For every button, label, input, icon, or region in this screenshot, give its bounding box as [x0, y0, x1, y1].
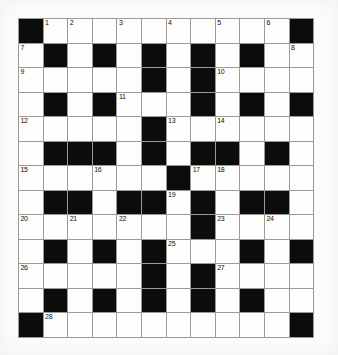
crossword-cell[interactable]	[19, 239, 44, 264]
crossword-cell[interactable]	[19, 141, 44, 166]
crossword-cell[interactable]: 10	[215, 68, 240, 93]
crossword-cell[interactable]	[166, 264, 191, 289]
crossword-cell[interactable]	[43, 68, 68, 93]
crossword-cell[interactable]	[68, 166, 93, 191]
crossword-cell[interactable]	[166, 92, 191, 117]
crossword-cell[interactable]: 4	[166, 19, 191, 44]
crossword-cell[interactable]	[240, 117, 265, 142]
crossword-cell[interactable]: 3	[117, 19, 142, 44]
crossword-cell[interactable]	[215, 43, 240, 68]
crossword-cell[interactable]: 7	[19, 43, 44, 68]
crossword-cell[interactable]	[117, 264, 142, 289]
crossword-cell[interactable]	[166, 215, 191, 240]
crossword-cell[interactable]	[166, 288, 191, 313]
crossword-cell[interactable]	[117, 43, 142, 68]
crossword-cell[interactable]	[264, 92, 289, 117]
crossword-cell[interactable]	[117, 166, 142, 191]
crossword-cell[interactable]	[92, 313, 117, 338]
crossword-cell[interactable]	[191, 239, 216, 264]
crossword-cell[interactable]: 25	[166, 239, 191, 264]
crossword-cell[interactable]: 16	[92, 166, 117, 191]
crossword-cell[interactable]	[289, 68, 314, 93]
crossword-cell[interactable]	[43, 166, 68, 191]
crossword-cell[interactable]	[43, 264, 68, 289]
crossword-cell[interactable]	[166, 43, 191, 68]
crossword-cell[interactable]	[141, 313, 166, 338]
crossword-cell[interactable]	[92, 19, 117, 44]
crossword-cell[interactable]	[92, 190, 117, 215]
crossword-cell[interactable]	[289, 117, 314, 142]
crossword-cell[interactable]	[264, 43, 289, 68]
crossword-cell[interactable]	[19, 288, 44, 313]
crossword-cell[interactable]: 26	[19, 264, 44, 289]
crossword-cell[interactable]: 1	[43, 19, 68, 44]
crossword-cell[interactable]: 8	[289, 43, 314, 68]
crossword-cell[interactable]	[68, 313, 93, 338]
crossword-cell[interactable]	[240, 264, 265, 289]
crossword-cell[interactable]	[43, 215, 68, 240]
crossword-cell[interactable]	[191, 117, 216, 142]
crossword-cell[interactable]	[68, 117, 93, 142]
crossword-cell[interactable]	[240, 141, 265, 166]
crossword-cell[interactable]: 5	[215, 19, 240, 44]
crossword-cell[interactable]: 17	[191, 166, 216, 191]
crossword-cell[interactable]	[166, 141, 191, 166]
crossword-cell[interactable]	[264, 68, 289, 93]
crossword-grid[interactable]: 1234567891011121314151617181920212223242…	[18, 18, 314, 338]
crossword-cell[interactable]	[92, 117, 117, 142]
crossword-cell[interactable]	[68, 264, 93, 289]
crossword-cell[interactable]	[141, 19, 166, 44]
crossword-cell[interactable]	[215, 92, 240, 117]
crossword-cell[interactable]	[191, 313, 216, 338]
crossword-cell[interactable]	[92, 68, 117, 93]
crossword-cell[interactable]	[141, 92, 166, 117]
crossword-cell[interactable]	[264, 288, 289, 313]
crossword-cell[interactable]	[240, 19, 265, 44]
crossword-cell[interactable]	[68, 288, 93, 313]
crossword-cell[interactable]	[240, 313, 265, 338]
crossword-cell[interactable]	[264, 239, 289, 264]
crossword-cell[interactable]: 6	[264, 19, 289, 44]
crossword-cell[interactable]	[117, 141, 142, 166]
crossword-cell[interactable]	[19, 92, 44, 117]
crossword-cell[interactable]	[92, 215, 117, 240]
crossword-cell[interactable]	[240, 166, 265, 191]
crossword-cell[interactable]	[215, 190, 240, 215]
crossword-cell[interactable]	[68, 92, 93, 117]
crossword-cell[interactable]: 24	[264, 215, 289, 240]
crossword-cell[interactable]	[264, 264, 289, 289]
crossword-cell[interactable]	[289, 264, 314, 289]
crossword-cell[interactable]: 9	[19, 68, 44, 93]
crossword-cell[interactable]	[117, 117, 142, 142]
crossword-cell[interactable]	[264, 117, 289, 142]
crossword-cell[interactable]: 22	[117, 215, 142, 240]
crossword-cell[interactable]	[166, 68, 191, 93]
crossword-cell[interactable]: 15	[19, 166, 44, 191]
crossword-cell[interactable]: 27	[215, 264, 240, 289]
crossword-cell[interactable]	[117, 68, 142, 93]
crossword-cell[interactable]	[19, 190, 44, 215]
crossword-cell[interactable]	[240, 215, 265, 240]
crossword-cell[interactable]: 2	[68, 19, 93, 44]
crossword-cell[interactable]	[289, 141, 314, 166]
crossword-cell[interactable]	[289, 166, 314, 191]
crossword-cell[interactable]	[264, 166, 289, 191]
crossword-cell[interactable]	[92, 264, 117, 289]
crossword-cell[interactable]	[191, 19, 216, 44]
crossword-cell[interactable]	[240, 68, 265, 93]
crossword-cell[interactable]: 20	[19, 215, 44, 240]
crossword-cell[interactable]: 19	[166, 190, 191, 215]
crossword-cell[interactable]	[215, 288, 240, 313]
crossword-cell[interactable]	[68, 239, 93, 264]
crossword-cell[interactable]: 13	[166, 117, 191, 142]
crossword-cell[interactable]	[117, 288, 142, 313]
crossword-cell[interactable]	[215, 313, 240, 338]
crossword-cell[interactable]: 14	[215, 117, 240, 142]
crossword-cell[interactable]	[166, 313, 191, 338]
crossword-cell[interactable]: 11	[117, 92, 142, 117]
crossword-cell[interactable]	[289, 215, 314, 240]
crossword-cell[interactable]	[117, 239, 142, 264]
crossword-cell[interactable]: 18	[215, 166, 240, 191]
crossword-cell[interactable]	[215, 239, 240, 264]
crossword-cell[interactable]: 28	[43, 313, 68, 338]
